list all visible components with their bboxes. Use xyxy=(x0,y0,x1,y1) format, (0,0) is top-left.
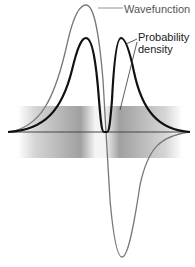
probability-density-label-line1: Probability xyxy=(138,31,189,43)
density-leader-1 xyxy=(126,39,137,44)
wavefunction-diagram: Wavefunction Probability density xyxy=(0,0,195,267)
probability-density-label-line2: density xyxy=(138,43,189,55)
probability-density-label: Probability density xyxy=(138,31,189,55)
wavefunction-label: Wavefunction xyxy=(124,3,190,15)
